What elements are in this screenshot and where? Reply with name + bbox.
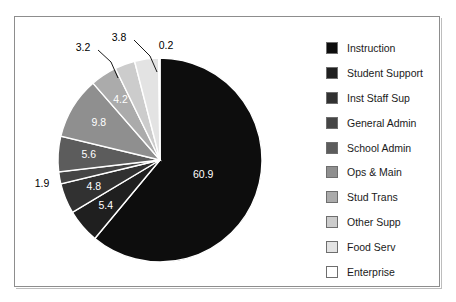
legend-item[interactable]: Instruction [326, 36, 436, 61]
pie-slice-value-label: 5.6 [81, 148, 96, 160]
legend-item-label: Enterprise [347, 266, 395, 278]
pie-slice-value-label: 4.8 [87, 180, 102, 192]
legend-item[interactable]: Stud Trans [326, 185, 436, 210]
legend-item-label: School Admin [347, 142, 411, 154]
legend-item-label: Inst Staff Sup [347, 92, 410, 104]
pie-slice-value-label: 1.9 [35, 177, 50, 189]
legend-item[interactable]: Student Support [326, 61, 436, 86]
chart-figure: 60.95.44.81.95.69.84.23.23.80.2 Instruct… [0, 0, 456, 302]
legend-item-label: Other Supp [347, 216, 401, 228]
legend-swatch [326, 92, 338, 104]
legend-item-label: Instruction [347, 42, 395, 54]
legend-item-label: General Admin [347, 117, 416, 129]
legend-swatch [326, 42, 338, 54]
legend-item[interactable]: General Admin [326, 110, 436, 135]
legend-item-label: Food Serv [347, 241, 395, 253]
legend-item[interactable]: Other Supp [326, 210, 436, 235]
pie-slice-value-label: 0.2 [159, 39, 174, 51]
legend-item-label: Student Support [347, 67, 423, 79]
legend-item[interactable]: Inst Staff Sup [326, 86, 436, 111]
pie-slice-value-label: 3.2 [76, 41, 91, 53]
legend-item[interactable]: School Admin [326, 135, 436, 160]
legend-swatch [326, 266, 338, 278]
legend-item[interactable]: Food Serv [326, 234, 436, 259]
pie-slice-value-label: 3.8 [112, 31, 127, 43]
legend-swatch [326, 67, 338, 79]
pie-chart: 60.95.44.81.95.69.84.23.23.80.2 [14, 16, 314, 284]
chart-legend: InstructionStudent SupportInst Staff Sup… [326, 36, 436, 284]
legend-swatch [326, 241, 338, 253]
legend-item[interactable]: Ops & Main [326, 160, 436, 185]
legend-swatch [326, 117, 338, 129]
legend-swatch [326, 142, 338, 154]
pie-slice-value-label: 9.8 [92, 116, 107, 128]
pie-slice-value-label: 5.4 [98, 199, 113, 211]
legend-item-label: Stud Trans [347, 191, 398, 203]
pie-slice-value-label: 60.9 [193, 168, 214, 180]
legend-swatch [326, 216, 338, 228]
legend-swatch [326, 166, 338, 178]
legend-item[interactable]: Enterprise [326, 259, 436, 284]
legend-item-label: Ops & Main [347, 166, 402, 178]
pie-slice-value-label: 4.2 [113, 93, 128, 105]
legend-swatch [326, 191, 338, 203]
